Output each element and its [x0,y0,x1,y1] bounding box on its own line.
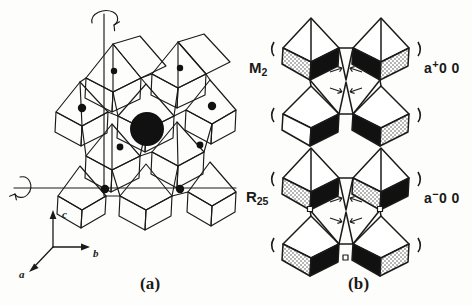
panel-caption-b: (b) [348,274,369,294]
octahedron [352,216,409,276]
octahedron [282,216,339,276]
axis-label-b: b [93,247,99,259]
octahedron [352,148,409,210]
tilt-base: a [424,60,432,76]
tilt-sign-plus: + [432,58,439,70]
panel-b-drawing [0,0,472,305]
tilt-diagram-m2 [272,18,421,146]
tilt-rest: 0 0 [439,190,460,206]
figure-root: c b a M2 a+0 0 R25 a−0 0 (a) (b) [0,0,472,305]
tilt-label-a-plus: a+0 0 [424,58,460,76]
tilt-base: a [424,190,432,206]
octahedron [282,148,339,210]
mode-name-r: R [246,188,257,205]
axis-label-a: a [19,268,25,280]
tilt-label-a-minus: a−0 0 [424,188,460,206]
mode-subscript-2: 2 [262,66,268,78]
tilt-rest: 0 0 [439,60,460,76]
octahedron [352,18,409,80]
mode-name-m: M [249,59,262,76]
octahedron [282,18,339,80]
tilt-diagram-r25 [272,148,421,276]
octahedron [282,86,339,146]
mode-subscript-25: 25 [257,195,268,207]
axis-label-c: c [62,208,67,220]
mode-label-m2: M2 [249,59,267,78]
octahedron [352,86,409,146]
panel-caption-a: (a) [140,274,160,294]
tilt-sign-minus: − [432,188,439,200]
mode-label-r25: R25 [246,188,268,207]
